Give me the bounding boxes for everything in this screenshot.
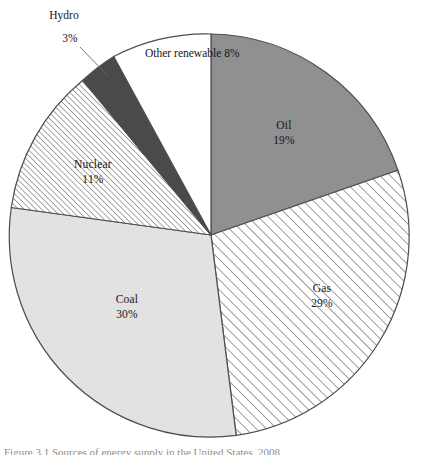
slice-label-gas: Gas 29%	[287, 281, 357, 311]
slice-label-nuclear: Nuclear 11%	[55, 157, 131, 187]
slice-label-hydro-value: 3%	[62, 32, 77, 44]
slice-label-other-renewable-value: 8%	[224, 47, 239, 59]
slice-label-oil: Oil 19%	[249, 118, 319, 148]
slice-label-hydro-value-wrap: 3%	[40, 30, 100, 46]
slice-label-hydro-name: Hydro	[49, 9, 78, 21]
slice-label-nuclear-name: Nuclear	[55, 157, 131, 172]
slice-label-coal-value: 30%	[90, 307, 164, 322]
slice-label-coal-name: Coal	[90, 292, 164, 307]
figure-caption: Figure 3.1 Sources of energy supply in t…	[4, 446, 424, 455]
slice-label-nuclear-value: 11%	[55, 172, 131, 187]
slice-label-hydro-name-wrap: Hydro	[34, 7, 94, 23]
slice-label-coal: Coal 30%	[90, 292, 164, 322]
slice-label-other-renewable: Other renewable 8%	[145, 45, 237, 61]
slice-label-other-renewable-line1: Other	[145, 47, 171, 59]
pie-slice-coal[interactable]	[9, 208, 236, 438]
slice-label-oil-name: Oil	[249, 118, 319, 133]
slice-label-oil-value: 19%	[249, 133, 319, 148]
slice-label-other-renewable-line2: renewable	[174, 47, 221, 59]
slice-label-gas-value: 29%	[287, 296, 357, 311]
slice-label-gas-name: Gas	[287, 281, 357, 296]
